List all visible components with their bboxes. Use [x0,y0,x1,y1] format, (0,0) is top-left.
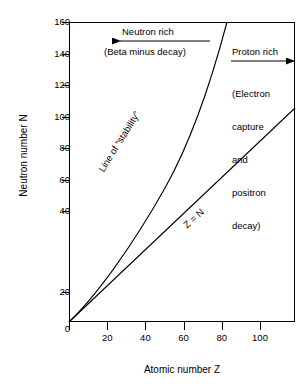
x-tick-mark-60 [184,322,185,330]
x-axis-title: Atomic number Z [69,364,295,375]
y-axis-title: Neutron number N [18,86,29,226]
x-tick-label-60: 60 [164,333,204,343]
x-tick-label-100: 100 [240,333,280,343]
y-tick-mark-20 [62,292,70,293]
y-tick-group-100: 100 [0,112,70,122]
x-tick-mark-100 [260,322,261,330]
x-tick-mark-0 [69,322,70,330]
y-tick-mark-80 [62,148,70,149]
y-tick-group-60: 60 [0,175,70,185]
annotation-ec-line5: decay) [232,220,270,231]
y-tick-mark-140 [62,54,70,55]
x-tick-label-20: 20 [87,333,127,343]
y-tick-group-80: 80 [0,143,70,153]
annotation-ec-line4: positron [232,187,270,198]
y-tick-mark-160 [62,22,70,23]
x-tick-label-80: 80 [202,333,242,343]
annotation-ec-line2: capture [232,121,270,132]
y-tick-mark-40 [62,211,70,212]
y-tick-group-20: 20 [0,287,70,297]
x-tick-mark-40 [145,322,146,330]
chart-canvas: 160 140 120 100 80 60 40 20 0 20 40 60 8… [0,0,306,388]
x-tick-mark-20 [107,322,108,330]
x-tick-mark-80 [222,322,223,330]
annotation-ec-line1: (Electron [232,88,270,99]
y-tick-mark-60 [62,180,70,181]
annotation-electron-capture: (Electron capture and positron decay) [232,66,270,253]
annotation-ec-line3: and [232,154,270,165]
y-tick-mark-120 [62,85,70,86]
y-tick-label-0: 0 [30,324,70,334]
y-tick-mark-100 [62,117,70,118]
annotation-neutron-rich: Neutron rich [122,26,174,37]
y-tick-group-40: 40 [0,206,70,216]
y-tick-group-120: 120 [0,80,70,90]
y-tick-group-0: 0 [0,324,70,334]
annotation-proton-rich: Proton rich [232,46,278,57]
annotation-beta-minus-decay: (Beta minus decay) [104,46,186,57]
x-tick-label-40: 40 [125,333,165,343]
y-tick-group-160: 160 [0,17,70,27]
y-tick-group-140: 140 [0,49,70,59]
